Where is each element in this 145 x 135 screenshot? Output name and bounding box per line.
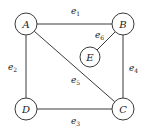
node-C: C [112, 98, 134, 120]
node-label: B [118, 19, 126, 30]
graph-diagram: ABEDC e1e2e3e4e5e6 [0, 0, 145, 135]
node-E: E [80, 47, 100, 67]
node-label: C [119, 104, 127, 115]
node-A: A [15, 13, 37, 35]
edge-label-e4: e4 [129, 63, 138, 74]
edge-label-e2: e2 [8, 62, 17, 73]
node-D: D [15, 98, 37, 120]
node-B: B [112, 13, 134, 35]
edge-label-e3: e3 [71, 116, 80, 127]
node-label: D [21, 104, 30, 115]
node-label: A [21, 19, 29, 30]
edge-label-e5: e5 [71, 75, 80, 86]
edge-e5 [34, 31, 114, 102]
edge-label-e6: e6 [95, 30, 104, 41]
node-label: E [85, 52, 94, 63]
edge-label-e1: e1 [71, 6, 80, 17]
edges-layer [26, 24, 123, 109]
